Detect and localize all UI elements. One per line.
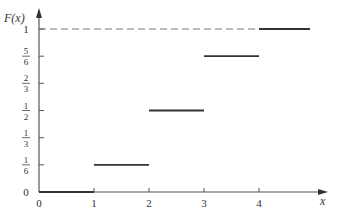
fraction-denominator: 6 [24,57,29,67]
y-ticks: 016131223561 [22,23,44,198]
x-tick-label: 3 [201,197,207,209]
x-tick-label: 2 [146,197,152,209]
y-tick-fraction: 16 [22,155,30,176]
fraction-denominator: 2 [24,112,29,122]
x-axis-label: x [319,194,326,208]
axes [36,8,328,195]
y-axis-label: F(x) [3,11,25,25]
fraction-numerator: 5 [24,46,29,56]
y-tick-fraction: 12 [22,101,30,122]
x-tick-label: 0 [36,197,42,209]
fraction-numerator: 1 [24,128,29,138]
y-axis-arrow-icon [36,8,42,18]
y-tick-label: 0 [23,186,29,198]
y-tick-fraction: 23 [22,73,30,94]
fraction-denominator: 3 [24,84,29,94]
x-tick-label: 1 [91,197,97,209]
step-segments [39,29,310,192]
step-chart: 016131223561 01234 F(x) x [0,0,337,217]
y-tick-fraction: 56 [22,46,30,67]
y-tick-fraction: 13 [22,128,30,149]
fraction-denominator: 6 [24,166,29,176]
fraction-numerator: 1 [24,101,29,111]
fraction-numerator: 1 [24,155,29,165]
fraction-denominator: 3 [24,139,29,149]
x-tick-label: 4 [256,197,262,209]
fraction-numerator: 2 [24,73,29,83]
